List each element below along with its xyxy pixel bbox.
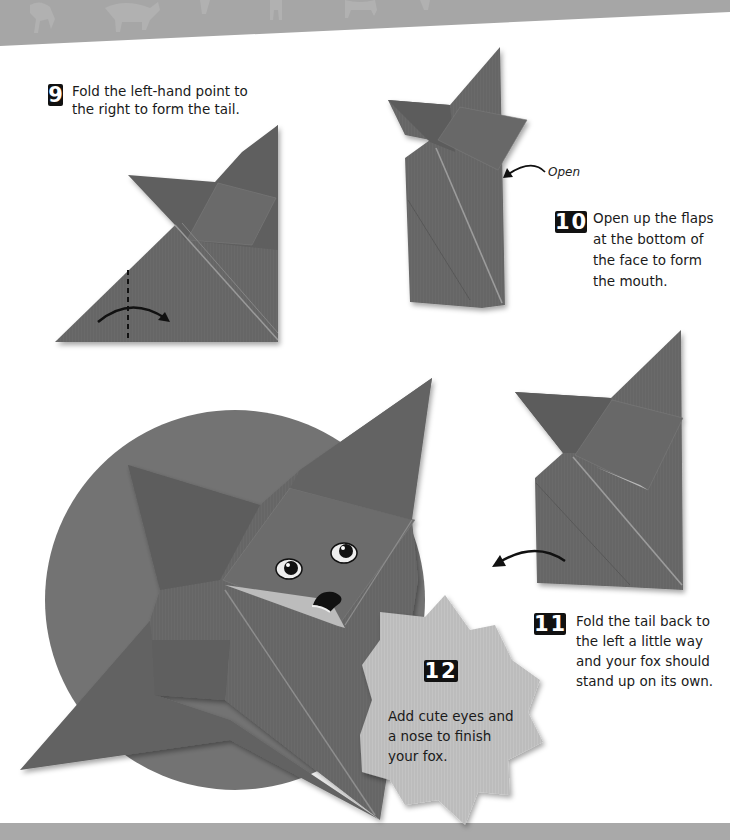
step-10-text: Open up the flaps at the bottom of the f… <box>593 208 730 292</box>
step-12-text: Add cute eyes and a nose to finish your … <box>388 706 538 766</box>
step-9-diagram <box>55 125 278 342</box>
step-9-text: Fold the left-hand point to the right to… <box>72 82 292 118</box>
fox-right-eye <box>331 543 357 563</box>
origami-artwork <box>0 0 730 840</box>
open-arrow-icon <box>503 166 545 178</box>
step-number-10: 10 <box>555 211 587 233</box>
step-number-9: 9 <box>48 84 63 106</box>
step-number-12: 12 <box>424 660 458 682</box>
fox-left-eye <box>276 559 302 579</box>
step-number-11: 11 <box>534 613 566 635</box>
step-11-text: Fold the tail back to the left a little … <box>576 611 730 691</box>
open-label: Open <box>548 165 580 179</box>
